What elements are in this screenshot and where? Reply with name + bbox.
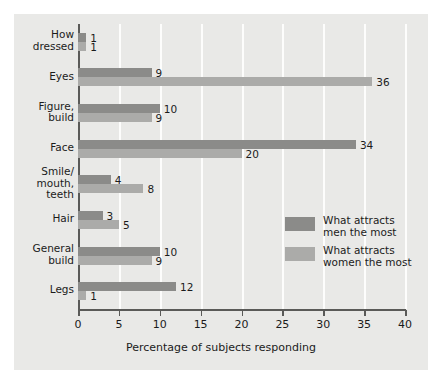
x-tick-label-35: 35 bbox=[357, 318, 371, 331]
bar-value-women: 1 bbox=[90, 292, 97, 301]
bar-men bbox=[78, 175, 111, 184]
legend-label-line: women the most bbox=[323, 256, 412, 268]
category-row: Smile/mouth,teeth48 bbox=[14, 167, 428, 203]
bar-value-women: 5 bbox=[123, 221, 130, 230]
category-label: Generalbuild bbox=[4, 243, 74, 266]
x-tick-40 bbox=[405, 310, 407, 316]
category-label-line: teeth bbox=[4, 189, 74, 201]
x-tick-label-5: 5 bbox=[115, 318, 122, 331]
bar-value-women: 9 bbox=[156, 114, 163, 123]
category-label-line: build bbox=[4, 112, 74, 124]
bar-women bbox=[78, 256, 152, 265]
category-label: Figure,build bbox=[4, 101, 74, 124]
bar-women bbox=[78, 184, 143, 193]
bar-women bbox=[78, 42, 86, 51]
x-tick-label-10: 10 bbox=[153, 318, 167, 331]
bar-women bbox=[78, 149, 242, 158]
legend-swatch bbox=[285, 247, 315, 261]
x-tick-5 bbox=[119, 310, 121, 316]
bar-men bbox=[78, 247, 160, 256]
bar-value-women: 1 bbox=[90, 43, 97, 52]
x-tick-label-20: 20 bbox=[235, 318, 249, 331]
category-label: Face bbox=[4, 142, 74, 154]
category-label-line: Smile/ bbox=[4, 166, 74, 178]
x-tick-label-30: 30 bbox=[316, 318, 330, 331]
category-row: Eyes936 bbox=[14, 60, 428, 96]
x-tick-20 bbox=[242, 310, 244, 316]
bar-women bbox=[78, 113, 152, 122]
bar-men bbox=[78, 104, 160, 113]
legend-label-line: What attracts bbox=[323, 244, 412, 256]
x-tick-10 bbox=[160, 310, 162, 316]
bar-women bbox=[78, 77, 372, 86]
x-tick-30 bbox=[323, 310, 325, 316]
chart-panel: 0510152025303540 Howdressed11Eyes936Figu… bbox=[14, 14, 428, 370]
x-tick-25 bbox=[282, 310, 284, 316]
legend-label-line: men the most bbox=[323, 226, 397, 238]
bar-men bbox=[78, 33, 86, 42]
x-tick-label-40: 40 bbox=[398, 318, 412, 331]
category-label: Howdressed bbox=[4, 29, 74, 52]
bar-value-men: 10 bbox=[164, 248, 177, 257]
bar-women bbox=[78, 291, 86, 300]
x-tick-35 bbox=[364, 310, 366, 316]
category-label: Hair bbox=[4, 213, 74, 225]
bar-value-women: 9 bbox=[156, 257, 163, 266]
category-label-line: Eyes bbox=[4, 71, 74, 83]
bar-value-women: 36 bbox=[376, 78, 389, 87]
x-tick-label-15: 15 bbox=[194, 318, 208, 331]
x-axis-title: Percentage of subjects responding bbox=[14, 341, 428, 354]
legend-swatch bbox=[285, 217, 315, 231]
category-label: Smile/mouth,teeth bbox=[4, 166, 74, 201]
x-tick-label-25: 25 bbox=[275, 318, 289, 331]
category-row: Legs121 bbox=[14, 273, 428, 309]
legend-label: What attractsmen the most bbox=[323, 214, 397, 238]
bar-value-men: 12 bbox=[180, 283, 193, 292]
x-tick-label-0: 0 bbox=[75, 318, 82, 331]
bar-women bbox=[78, 220, 119, 229]
category-row: Figure,build109 bbox=[14, 95, 428, 131]
category-row: Face3420 bbox=[14, 131, 428, 167]
legend-label-line: What attracts bbox=[323, 214, 397, 226]
bar-men bbox=[78, 211, 103, 220]
category-label-line: Legs bbox=[4, 284, 74, 296]
category-label-line: Hair bbox=[4, 213, 74, 225]
bar-value-men: 34 bbox=[360, 141, 373, 150]
category-label-line: build bbox=[4, 255, 74, 267]
category-label-line: General bbox=[4, 243, 74, 255]
bar-value-men: 10 bbox=[164, 105, 177, 114]
x-tick-15 bbox=[201, 310, 203, 316]
category-row: Howdressed11 bbox=[14, 24, 428, 60]
category-label: Legs bbox=[4, 284, 74, 296]
x-tick-0 bbox=[78, 310, 80, 316]
bar-men bbox=[78, 68, 152, 77]
legend-label: What attractswomen the most bbox=[323, 244, 412, 268]
category-label-line: Face bbox=[4, 142, 74, 154]
bar-men bbox=[78, 140, 356, 149]
category-label-line: dressed bbox=[4, 41, 74, 53]
bar-value-women: 20 bbox=[246, 150, 259, 159]
category-label: Eyes bbox=[4, 71, 74, 83]
bar-value-women: 8 bbox=[147, 185, 154, 194]
